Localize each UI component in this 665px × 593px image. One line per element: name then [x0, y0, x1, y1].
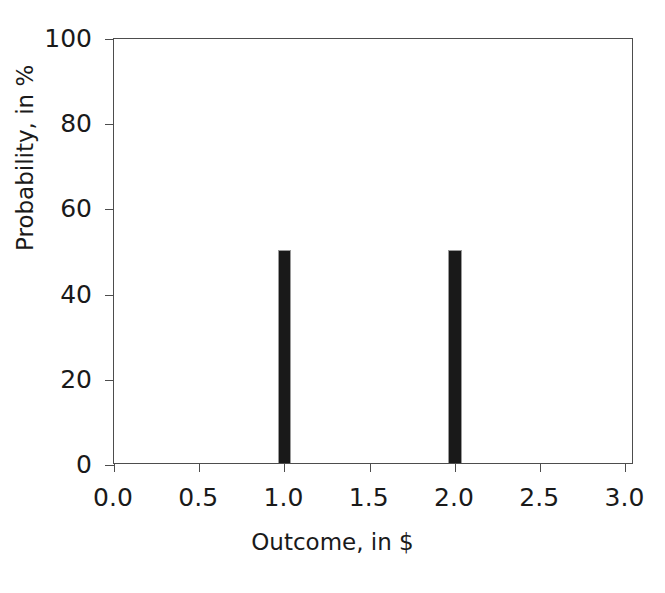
plot-area [113, 38, 633, 464]
x-tick-label: 1.5 [349, 485, 389, 510]
y-tick-label: 100 [0, 26, 92, 51]
y-tick-label: 40 [0, 282, 92, 307]
y-tick-mark [105, 39, 114, 40]
y-tick-mark [105, 209, 114, 210]
x-tick-mark [284, 463, 285, 472]
x-tick-mark [455, 463, 456, 472]
y-tick-label: 80 [0, 111, 92, 136]
y-tick-mark [105, 465, 114, 466]
x-tick-label: 0.0 [93, 485, 133, 510]
x-tick-label: 1.0 [264, 485, 304, 510]
y-tick-label: 20 [0, 367, 92, 392]
x-tick-mark [625, 463, 626, 472]
y-tick-mark [105, 380, 114, 381]
chart-figure: Probability, in % Outcome, in $ 02040608… [0, 0, 665, 593]
x-tick-mark [540, 463, 541, 472]
bar [448, 250, 461, 463]
x-tick-mark [114, 463, 115, 472]
x-tick-label: 3.0 [605, 485, 645, 510]
y-axis-title: Probability, in % [14, 65, 37, 251]
x-tick-mark [199, 463, 200, 472]
y-tick-label: 60 [0, 196, 92, 221]
y-tick-label: 0 [0, 452, 92, 477]
x-tick-label: 0.5 [178, 485, 218, 510]
bar [278, 250, 291, 463]
x-tick-label: 2.5 [519, 485, 559, 510]
x-tick-label: 2.0 [434, 485, 474, 510]
y-tick-mark [105, 124, 114, 125]
x-axis-title: Outcome, in $ [0, 531, 665, 554]
x-tick-mark [370, 463, 371, 472]
y-tick-mark [105, 295, 114, 296]
